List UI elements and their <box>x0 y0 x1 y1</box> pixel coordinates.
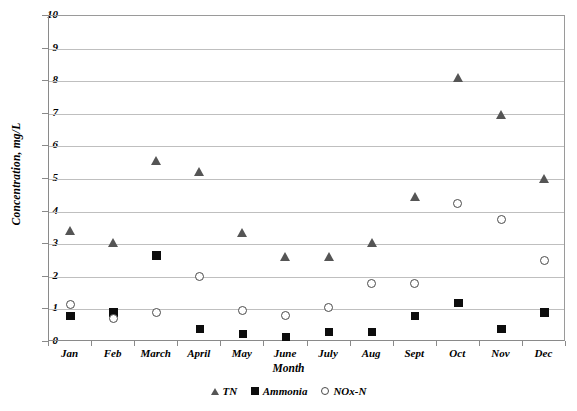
data-point-tn-oct[interactable] <box>453 73 463 82</box>
data-point-ammonia-oct[interactable] <box>454 299 463 308</box>
scatter-chart: Concentration, mg/L 012345678910 JanFebM… <box>0 0 577 411</box>
data-point-nox-n-june[interactable] <box>281 311 290 320</box>
square-icon <box>251 387 259 395</box>
gridline <box>49 49 564 50</box>
x-axis-tick-mark <box>134 341 135 346</box>
data-point-nox-n-april[interactable] <box>195 272 204 281</box>
gridline <box>49 309 564 310</box>
legend-item-ammonia[interactable]: Ammonia <box>251 385 307 397</box>
x-axis-tick-mark <box>393 341 394 346</box>
data-point-nox-n-may[interactable] <box>238 306 247 315</box>
triangle-icon <box>211 388 219 395</box>
gridline <box>49 146 564 147</box>
data-point-ammonia-sept[interactable] <box>411 312 420 321</box>
x-axis-tick-mark <box>220 341 221 346</box>
data-point-tn-feb[interactable] <box>108 238 118 247</box>
data-point-nox-n-july[interactable] <box>324 303 333 312</box>
gridline <box>49 179 564 180</box>
data-point-ammonia-jan[interactable] <box>66 312 75 321</box>
x-axis-tick-mark <box>522 341 523 346</box>
data-point-nox-n-dec[interactable] <box>540 256 549 265</box>
data-point-tn-march[interactable] <box>151 156 161 165</box>
data-point-tn-june[interactable] <box>280 252 290 261</box>
x-axis-tick-mark <box>263 341 264 346</box>
y-axis-title: Concentration, mg/L <box>10 94 22 254</box>
data-point-tn-dec[interactable] <box>539 174 549 183</box>
x-axis-tick-mark <box>177 341 178 346</box>
legend-label: TN <box>223 385 238 397</box>
plot-area <box>48 15 565 341</box>
data-point-tn-sept[interactable] <box>410 192 420 201</box>
data-point-nox-n-jan[interactable] <box>66 300 75 309</box>
data-point-ammonia-dec[interactable] <box>540 308 549 317</box>
data-point-ammonia-nov[interactable] <box>497 325 506 334</box>
data-point-nox-n-oct[interactable] <box>453 199 462 208</box>
data-point-tn-jan[interactable] <box>65 226 75 235</box>
x-axis-tick-mark <box>565 341 566 346</box>
gridline <box>49 244 564 245</box>
x-axis-tick-mark <box>436 341 437 346</box>
data-point-ammonia-june[interactable] <box>282 333 291 342</box>
gridline <box>49 81 564 82</box>
legend-label: Ammonia <box>263 385 308 397</box>
data-point-ammonia-march[interactable] <box>152 251 161 260</box>
data-point-tn-april[interactable] <box>194 167 204 176</box>
data-point-nox-n-sept[interactable] <box>410 279 419 288</box>
x-axis-tick-mark <box>48 341 49 346</box>
data-point-nox-n-aug[interactable] <box>367 279 376 288</box>
circle-open-icon <box>321 387 329 395</box>
gridline <box>49 277 564 278</box>
legend-item-nox-n[interactable]: NOx-N <box>321 385 366 397</box>
data-point-ammonia-aug[interactable] <box>368 328 377 337</box>
data-point-nox-n-feb[interactable] <box>109 314 118 323</box>
legend-label: NOx-N <box>333 385 366 397</box>
x-axis-tick-mark <box>91 341 92 346</box>
gridline <box>49 212 564 213</box>
data-point-tn-aug[interactable] <box>367 238 377 247</box>
data-point-ammonia-april[interactable] <box>196 325 205 334</box>
data-point-tn-july[interactable] <box>324 252 334 261</box>
x-axis-tick-label: Dec <box>513 347 573 359</box>
x-axis-title: Month <box>0 362 577 374</box>
data-point-tn-nov[interactable] <box>496 110 506 119</box>
data-point-nox-n-nov[interactable] <box>497 215 506 224</box>
data-point-nox-n-march[interactable] <box>152 308 161 317</box>
gridline <box>49 114 564 115</box>
data-point-ammonia-july[interactable] <box>325 328 334 337</box>
x-axis-tick-mark <box>307 341 308 346</box>
legend-item-tn[interactable]: TN <box>211 385 238 397</box>
data-point-tn-may[interactable] <box>237 228 247 237</box>
x-axis-tick-mark <box>479 341 480 346</box>
chart-legend: TNAmmoniaNOx-N <box>0 385 577 397</box>
x-axis-tick-mark <box>350 341 351 346</box>
data-point-ammonia-may[interactable] <box>239 330 248 339</box>
